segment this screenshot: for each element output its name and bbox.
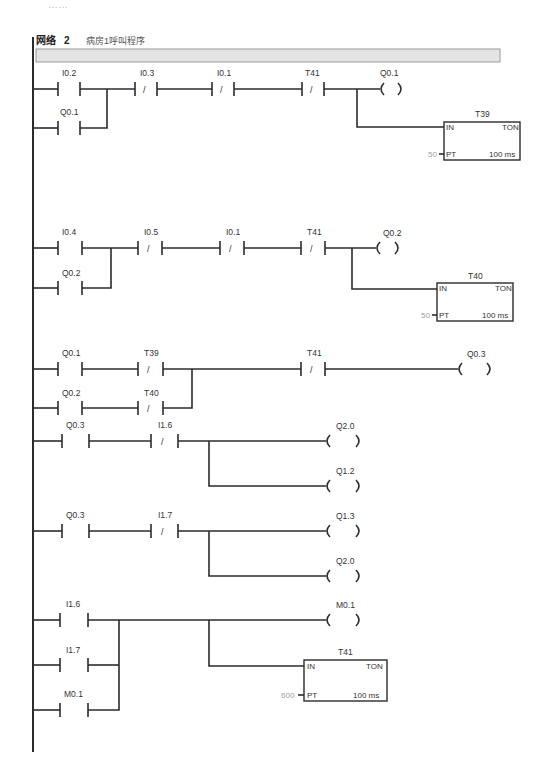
contact-nc[interactable]: / I0.1 — [212, 68, 234, 96]
svg-text:600: 600 — [281, 691, 295, 700]
contact-no[interactable]: I1.6 — [60, 599, 88, 627]
network-label: 网络 — [36, 34, 56, 46]
svg-text:/: / — [143, 85, 146, 95]
svg-text:/: / — [220, 85, 223, 95]
svg-text:Q0.3: Q0.3 — [467, 349, 486, 359]
svg-text:IN: IN — [439, 284, 447, 293]
contact-no[interactable]: Q0.2 — [58, 388, 82, 415]
network-header: 网络 2 病房1呼叫程序 — [36, 34, 500, 62]
rung-3: Q0.1 / T39 / T41 Q0.3 Q0.2 / T40 — [33, 348, 490, 415]
svg-text:TON: TON — [502, 123, 519, 132]
svg-text:T41: T41 — [307, 348, 322, 358]
contact-no[interactable]: Q0.3 — [62, 510, 89, 538]
svg-text:T41: T41 — [338, 647, 353, 657]
svg-text:100 ms: 100 ms — [489, 150, 515, 159]
svg-text:/: / — [229, 244, 232, 254]
svg-text:M0.1: M0.1 — [64, 689, 83, 699]
svg-text:/: / — [147, 244, 150, 254]
svg-text:TON: TON — [495, 284, 512, 293]
svg-text:/: / — [147, 365, 150, 375]
svg-text:/: / — [310, 85, 313, 95]
contact-nc[interactable]: / I0.1 — [220, 227, 244, 255]
svg-text:Q0.3: Q0.3 — [66, 420, 85, 430]
svg-text:I0.1: I0.1 — [226, 227, 240, 237]
svg-text:50: 50 — [421, 311, 430, 320]
contact-nc[interactable]: / I0.3 — [135, 68, 157, 96]
svg-text:T40: T40 — [144, 388, 159, 398]
svg-text:Q0.2: Q0.2 — [62, 268, 81, 278]
contact-no[interactable]: I1.7 — [60, 645, 88, 672]
network-comment-bar[interactable] — [36, 49, 500, 62]
contact-nc[interactable]: / T41 — [302, 68, 324, 96]
coil[interactable]: Q2.0 — [327, 421, 359, 447]
contact-nc[interactable]: / I1.7 — [151, 510, 178, 538]
contact-no[interactable]: Q0.1 — [58, 107, 80, 135]
contact-nc[interactable]: / T41 — [301, 348, 325, 376]
svg-text:I0.4: I0.4 — [62, 227, 76, 237]
contact-no[interactable]: Q0.1 — [58, 348, 82, 376]
contact-nc[interactable]: / I0.5 — [138, 227, 162, 255]
svg-text:100 ms: 100 ms — [482, 311, 508, 320]
contact-nc[interactable]: / I1.6 — [151, 420, 178, 448]
timer-box[interactable]: T41 IN TON PT 100 ms 600 — [281, 647, 387, 701]
svg-text:I0.3: I0.3 — [140, 68, 154, 78]
svg-text:T41: T41 — [305, 68, 320, 78]
contact-nc[interactable]: / T41 — [301, 227, 325, 255]
svg-text:Q2.0: Q2.0 — [336, 421, 355, 431]
svg-text:I1.7: I1.7 — [158, 510, 172, 520]
svg-text:I1.6: I1.6 — [158, 420, 172, 430]
contact-no[interactable]: Q0.3 — [62, 420, 89, 448]
svg-text:I0.5: I0.5 — [144, 227, 158, 237]
svg-text:Q0.2: Q0.2 — [383, 228, 402, 238]
svg-text:100 ms: 100 ms — [353, 691, 379, 700]
contact-nc[interactable]: / T40 — [138, 388, 163, 415]
svg-text:I1.6: I1.6 — [66, 599, 80, 609]
svg-text:/: / — [310, 244, 313, 254]
svg-text:M0.1: M0.1 — [336, 600, 355, 610]
svg-text:Q0.3: Q0.3 — [66, 510, 85, 520]
svg-text:I0.1: I0.1 — [217, 68, 231, 78]
svg-text:TON: TON — [366, 662, 383, 671]
svg-text:PT: PT — [307, 691, 317, 700]
svg-text:I0.2: I0.2 — [62, 68, 76, 78]
contact-no[interactable]: Q0.2 — [58, 268, 82, 295]
coil[interactable]: Q0.3 — [459, 349, 490, 375]
coil[interactable]: M0.1 — [327, 600, 359, 626]
contact-no[interactable]: M0.1 — [60, 689, 88, 717]
svg-text:T41: T41 — [307, 227, 322, 237]
rung-5: Q0.3 / I1.7 Q1.3 Q2.0 — [33, 510, 359, 582]
rung-2: I0.4 / I0.5 / I0.1 / T41 Q0.2 Q0.2 — [33, 227, 513, 321]
svg-text:PT: PT — [439, 311, 449, 320]
svg-text:I1.7: I1.7 — [66, 645, 80, 655]
timer-box[interactable]: T40 IN TON PT 100 ms 50 — [421, 271, 513, 321]
svg-text:Q0.1: Q0.1 — [62, 348, 81, 358]
svg-text:Q2.0: Q2.0 — [336, 556, 355, 566]
rung-1: I0.2 / I0.3 / I0.1 / T41 Q0.1 — [33, 68, 520, 160]
rung-6: I1.6 M0.1 I1.7 M0.1 T41 IN TON PT 100 ms… — [33, 599, 387, 717]
svg-text:T39: T39 — [144, 348, 159, 358]
top-faint-text: …… — [48, 0, 68, 10]
ladder-diagram: …… 网络 2 病房1呼叫程序 I0.2 / I0.3 / I0.1 — [0, 0, 550, 763]
svg-text:IN: IN — [307, 662, 315, 671]
svg-text:Q0.1: Q0.1 — [60, 107, 79, 117]
timer-box[interactable]: T39 IN TON PT 100 ms 50 — [428, 109, 520, 160]
rung-4: Q0.3 / I1.6 Q2.0 Q1.2 — [33, 420, 359, 492]
svg-text:T39: T39 — [475, 109, 490, 119]
svg-text:50: 50 — [428, 150, 437, 159]
svg-text:/: / — [147, 404, 150, 414]
svg-text:IN: IN — [446, 123, 454, 132]
svg-text:/: / — [161, 527, 164, 537]
coil[interactable]: Q1.3 — [327, 511, 359, 537]
contact-nc[interactable]: / T39 — [138, 348, 163, 376]
coil[interactable]: Q1.2 — [327, 466, 359, 492]
network-comment: 病房1呼叫程序 — [86, 35, 145, 46]
svg-text:Q1.3: Q1.3 — [336, 511, 355, 521]
network-number: 2 — [64, 35, 70, 46]
coil[interactable]: Q0.2 — [377, 228, 402, 254]
contact-no[interactable]: I0.2 — [58, 68, 80, 96]
coil[interactable]: Q0.1 — [380, 68, 401, 95]
coil[interactable]: Q2.0 — [327, 556, 359, 582]
svg-text:/: / — [161, 437, 164, 447]
contact-no[interactable]: I0.4 — [58, 227, 82, 255]
svg-text:/: / — [310, 365, 313, 375]
